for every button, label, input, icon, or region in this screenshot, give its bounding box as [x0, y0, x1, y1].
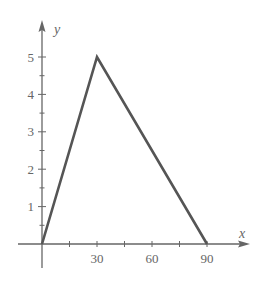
x-tick-label: 90 [201, 251, 214, 266]
y-tick-label: 2 [28, 162, 35, 177]
y-tick-label: 5 [28, 50, 35, 65]
x-axis-label: x [238, 226, 246, 241]
y-tick-label: 4 [28, 87, 35, 102]
axis-labels: xy [52, 22, 246, 241]
y-tick-label: 3 [28, 124, 35, 139]
x-tick-label: 30 [91, 251, 104, 266]
axes [18, 20, 250, 268]
data-series [42, 57, 207, 244]
series-line [42, 57, 207, 244]
x-tick-label: 60 [146, 251, 159, 266]
y-tick-label: 1 [28, 199, 35, 214]
y-axis-label: y [52, 22, 61, 37]
ticks: 30609012345 [28, 50, 214, 267]
line-chart: 30609012345 xy [0, 0, 266, 286]
